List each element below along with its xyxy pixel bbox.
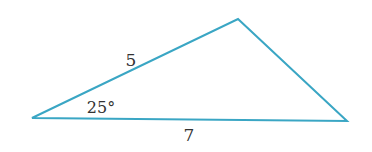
triangle-diagram: 5 25° 7 — [0, 0, 372, 152]
side-label-5: 5 — [126, 50, 137, 70]
angle-label-25: 25° — [87, 98, 115, 117]
triangle — [32, 19, 347, 121]
side-label-7: 7 — [184, 125, 195, 145]
